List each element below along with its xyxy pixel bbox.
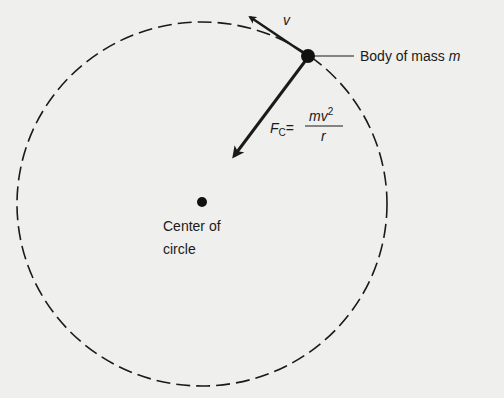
force-denominator: r [321, 128, 326, 144]
body-label: Body of mass m [360, 48, 460, 64]
center-point [197, 197, 207, 207]
center-label: Center of circle [163, 215, 221, 261]
body-of-mass [301, 49, 315, 63]
numerator-exponent: 2 [328, 106, 334, 117]
force-symbol: F [270, 120, 279, 136]
equals-sign: = [286, 120, 294, 136]
velocity-vector [250, 17, 308, 56]
numerator-text: mv [309, 108, 328, 124]
force-label: FC= [270, 120, 294, 141]
body-label-text: Body of mass [360, 48, 449, 64]
center-label-line1: Center of [163, 215, 221, 238]
centripetal-force-vector [234, 60, 306, 156]
force-numerator: mv2 [309, 106, 333, 124]
velocity-label: v [283, 12, 290, 28]
force-subscript: C [279, 127, 286, 138]
center-label-line2: circle [163, 238, 221, 261]
body-mass-variable: m [449, 48, 461, 64]
